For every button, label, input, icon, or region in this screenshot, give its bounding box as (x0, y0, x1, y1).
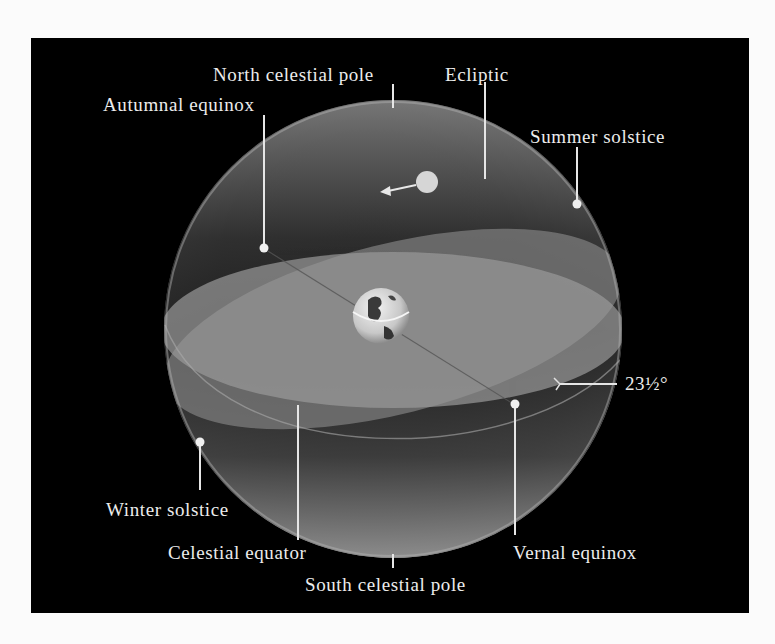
label-winter-solstice: Winter solstice (106, 500, 229, 519)
label-autumnal-equinox: Autumnal equinox (103, 95, 255, 114)
autumnal-equinox-marker (260, 244, 269, 253)
label-ecliptic: Ecliptic (445, 65, 509, 84)
earth-globe (353, 288, 409, 344)
sun (416, 171, 438, 193)
winter-solstice-marker (196, 438, 205, 447)
vernal-equinox-marker (511, 400, 520, 409)
label-celestial-equator: Celestial equator (168, 543, 306, 562)
label-south-celestial-pole: South celestial pole (305, 575, 466, 594)
label-vernal-equinox: Vernal equinox (513, 543, 637, 562)
label-summer-solstice: Summer solstice (530, 127, 665, 146)
summer-solstice-marker (573, 200, 582, 209)
label-tilt-angle: 23½° (625, 374, 668, 393)
label-north-celestial-pole: North celestial pole (213, 65, 374, 84)
